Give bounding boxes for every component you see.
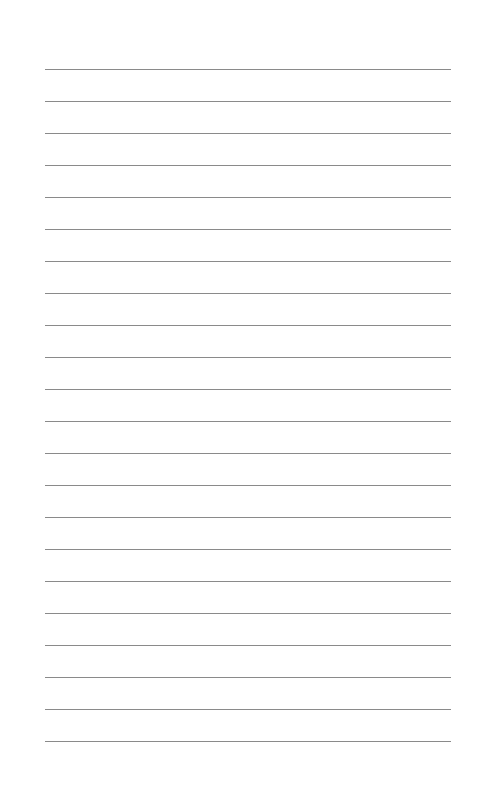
ruled-line [45, 101, 451, 102]
ruled-line [45, 325, 451, 326]
ruled-line [45, 613, 451, 614]
ruled-line [45, 549, 451, 550]
ruled-line [45, 389, 451, 390]
ruled-line [45, 197, 451, 198]
ruled-line [45, 741, 451, 742]
ruled-line [45, 229, 451, 230]
ruled-line [45, 261, 451, 262]
ruled-line [45, 357, 451, 358]
ruled-line [45, 453, 451, 454]
ruled-line [45, 709, 451, 710]
ruled-line [45, 581, 451, 582]
ruled-line [45, 165, 451, 166]
ruled-line [45, 677, 451, 678]
ruled-line [45, 293, 451, 294]
lined-paper-page [0, 0, 477, 810]
ruled-line [45, 69, 451, 70]
ruled-line [45, 133, 451, 134]
ruled-line [45, 485, 451, 486]
ruled-line [45, 517, 451, 518]
ruled-line [45, 645, 451, 646]
ruled-line [45, 421, 451, 422]
